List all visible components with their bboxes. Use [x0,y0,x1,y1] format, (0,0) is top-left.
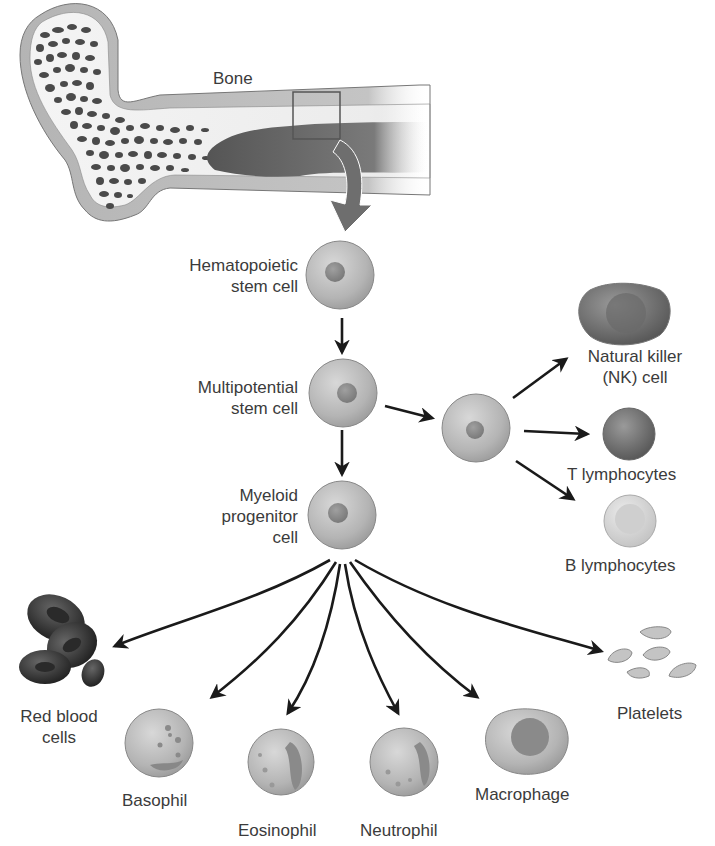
lymphoid-progenitor-cell [442,394,510,462]
label-myeloid-line2: progenitor [221,506,298,527]
label-rbc-line2: cells [10,727,108,748]
label-eosinophil: Eosinophil [238,820,316,841]
red-blood-cells [19,585,108,690]
label-bone: Bone [213,68,253,89]
arrow-to-basophil [212,562,336,697]
label-nk-line2: (NK) cell [570,367,700,388]
label-mpsc: Multipotential stem cell [198,377,298,419]
label-hsc-line1: Hematopoietic [189,255,298,276]
label-neutrophil: Neutrophil [360,820,438,841]
macrophage-cell [486,709,569,774]
basophil-cell [125,709,193,777]
stem-cell-mpsc [309,359,377,427]
arrow-to-nk [513,359,566,398]
label-rbc-line1: Red blood [10,706,108,727]
label-platelets: Platelets [617,703,682,724]
t-lymphocyte [603,408,655,460]
label-hsc: Hematopoietic stem cell [189,255,298,297]
eosinophil-cell [248,729,314,795]
label-nk: Natural killer (NK) cell [570,346,700,388]
b-lymphocyte [604,495,656,547]
nk-cell [579,283,670,345]
arrow-mpsc-to-lymphoid [385,406,432,418]
label-rbc: Red blood cells [10,706,108,748]
label-t-lymphocytes: T lymphocytes [567,464,676,485]
bone-illustration [20,4,430,232]
arrow-to-eosinophil [288,564,340,713]
arrow-to-macrophage [350,562,477,697]
label-macrophage: Macrophage [475,784,570,805]
label-myeloid-line3: cell [221,527,298,548]
arrow-to-b-lymphocytes [516,461,573,499]
arrow-to-rbc [115,560,330,646]
label-mpsc-line2: stem cell [198,398,298,419]
arrow-to-t-lymphocytes [524,431,587,434]
label-hsc-line2: stem cell [189,276,298,297]
label-nk-line1: Natural killer [570,346,700,367]
neutrophil-cell [370,728,438,796]
arrow-to-neutrophil [345,564,398,713]
stem-cell-hsc [306,241,374,309]
stem-cell-myeloid [308,481,376,549]
platelets [608,627,696,678]
label-b-lymphocytes: B lymphocytes [565,555,676,576]
label-basophil: Basophil [122,790,187,811]
label-myeloid-line1: Myeloid [221,485,298,506]
label-mpsc-line1: Multipotential [198,377,298,398]
label-myeloid: Myeloid progenitor cell [221,485,298,548]
